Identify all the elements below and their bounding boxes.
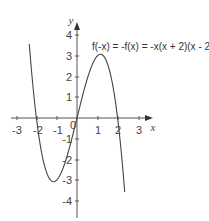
equation-label: f(-x) = -f(x) = -x(x + 2)(x - 2) bbox=[92, 41, 209, 52]
y-tick-label: 2 bbox=[66, 71, 72, 83]
x-tick-label: 1 bbox=[95, 124, 101, 136]
x-tick-label: -3 bbox=[12, 124, 22, 136]
x-axis bbox=[11, 115, 153, 121]
x-tick-label: 3 bbox=[136, 124, 142, 136]
chart: -3 -2 -1 1 2 3 0 4 3 2 1 -1 -2 -3 -4 y x… bbox=[0, 0, 209, 221]
y-tick-label: 1 bbox=[66, 91, 72, 103]
y-axis-arrow-icon bbox=[74, 22, 80, 30]
x-axis-label: x bbox=[150, 121, 156, 133]
y-tick-label: -3 bbox=[62, 174, 72, 186]
y-axis-label: y bbox=[68, 14, 74, 26]
y-tick-label: -4 bbox=[62, 195, 72, 207]
y-tick-label: 4 bbox=[66, 29, 72, 41]
y-tick-label: 3 bbox=[66, 50, 72, 62]
